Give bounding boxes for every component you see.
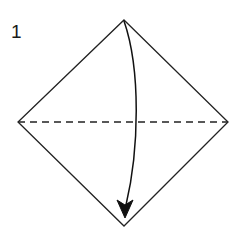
origami-diagram-svg: 1	[0, 0, 244, 238]
origami-diagram-canvas: 1	[0, 0, 244, 238]
step-number-label: 1	[11, 21, 22, 42]
